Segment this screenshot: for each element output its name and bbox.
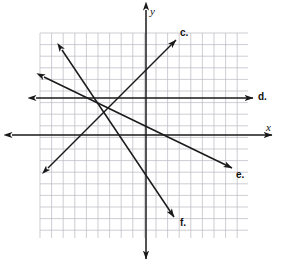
plotted-line-f xyxy=(62,50,174,217)
y-axis-label: y xyxy=(150,6,155,17)
axes-group xyxy=(12,10,272,259)
line-label-d: d. xyxy=(258,92,267,102)
x-axis-label: x xyxy=(266,122,271,133)
coordinate-plane-figure: x y c. d. e. f. xyxy=(0,0,283,272)
line-label-e: e. xyxy=(236,170,244,180)
line-label-f: f. xyxy=(180,218,186,228)
plot-canvas xyxy=(0,0,283,272)
line-label-c: c. xyxy=(180,28,188,38)
